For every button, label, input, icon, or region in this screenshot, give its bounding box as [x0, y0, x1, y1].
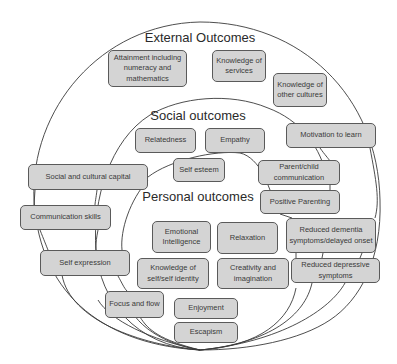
box-enjoyment: Enjoyment [174, 298, 238, 319]
box-communication-skills: Communication skills [20, 205, 111, 230]
box-empathy: Empathy [205, 128, 265, 153]
box-relaxation: Relaxation [217, 222, 278, 254]
box-self-expression: Self expression [40, 250, 130, 276]
box-reduced-dementia: Reduced dementia symptoms/delayed onset [286, 218, 376, 253]
box-parent-child-communication: Parent/child communication [258, 160, 340, 185]
box-focus-and-flow: Focus and flow [105, 291, 164, 318]
personal-outcomes-title: Personal outcomes [142, 189, 253, 204]
box-creativity-imagination: Creativity and imagination [217, 258, 289, 289]
box-self-esteem: Self esteem [173, 158, 225, 182]
box-relatedness: Relatedness [135, 128, 196, 153]
social-outcomes-title: Social outcomes [150, 108, 245, 123]
box-emotional-intelligence: Emotional Intelligence [152, 221, 211, 253]
nested-outcomes-diagram: External Outcomes Social outcomes Person… [0, 0, 397, 364]
box-positive-parenting: Positive Parenting [260, 190, 340, 214]
box-reduced-depressive: Reduced depressive symptoms [291, 258, 380, 283]
box-attainment: Attainment including numeracy and mathem… [108, 50, 187, 87]
box-knowledge-of-other-cultures: Knowledge of other cultures [273, 73, 327, 107]
box-knowledge-of-self: Knowledge of self/self identity [137, 258, 209, 289]
box-escapism: Escapism [174, 322, 238, 343]
box-social-cultural-capital: Social and cultural capital [28, 164, 148, 190]
box-motivation-to-learn: Motivation to learn [286, 123, 376, 148]
external-outcomes-title: External Outcomes [145, 30, 256, 45]
box-knowledge-of-services: Knowledge of services [212, 50, 266, 82]
